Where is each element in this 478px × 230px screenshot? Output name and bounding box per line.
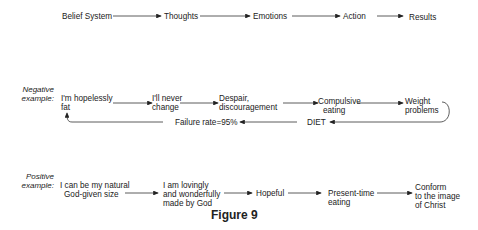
node-line: discouragement <box>219 103 277 112</box>
node-diet: DIET <box>307 118 326 127</box>
node-conform-christ: Conform to the image of Christ <box>415 183 460 210</box>
node-weight-problems: Weight problems <box>405 97 439 115</box>
positive-example-label: Positive example: <box>20 172 54 190</box>
negative-label-line2: example: <box>20 94 54 103</box>
node-line: Compulsive <box>318 97 361 106</box>
node-line: I'll never <box>152 94 182 103</box>
node-present-time-eating: Present-time eating <box>328 189 374 207</box>
node-line: eating <box>318 106 361 115</box>
node-hopelessly-fat: I'm hopelessly fat <box>61 94 113 112</box>
positive-label-line2: example: <box>20 181 54 190</box>
node-results: Results <box>409 13 436 22</box>
node-line: Present-time <box>328 189 374 198</box>
node-line: change <box>152 103 182 112</box>
node-line: God-given size <box>60 190 130 199</box>
node-emotions: Emotions <box>253 12 287 21</box>
positive-label-line1: Positive <box>20 172 54 181</box>
negative-example-label: Negative example: <box>20 85 54 103</box>
node-line: fat <box>61 103 113 112</box>
node-line: problems <box>405 106 439 115</box>
node-belief-system: Belief System <box>62 12 112 21</box>
negative-label-line1: Negative <box>20 85 54 94</box>
node-action: Action <box>343 12 366 21</box>
node-line: Despair, <box>219 94 277 103</box>
node-lovingly-made: I am lovingly and wonderfully made by Go… <box>163 181 220 208</box>
node-line: I am lovingly <box>163 181 220 190</box>
node-line: and wonderfully <box>163 190 220 199</box>
node-line: Weight <box>405 97 439 106</box>
node-compulsive-eating: Compulsive eating <box>318 97 361 115</box>
node-line: I'm hopelessly <box>61 94 113 103</box>
node-thoughts: Thoughts <box>164 12 198 21</box>
node-never-change: I'll never change <box>152 94 182 112</box>
node-line: to the image <box>415 192 460 201</box>
node-line: Conform <box>415 183 460 192</box>
node-line: eating <box>328 198 374 207</box>
node-despair: Despair, discouragement <box>219 94 277 112</box>
node-line: made by God <box>163 199 220 208</box>
node-natural-size: I can be my natural God-given size <box>60 181 130 199</box>
node-line: of Christ <box>415 201 460 210</box>
node-hopeful: Hopeful <box>256 189 284 198</box>
node-failure-rate: Failure rate=95% <box>175 118 238 127</box>
node-line: I can be my natural <box>60 181 130 190</box>
figure-caption: Figure 9 <box>211 208 258 222</box>
